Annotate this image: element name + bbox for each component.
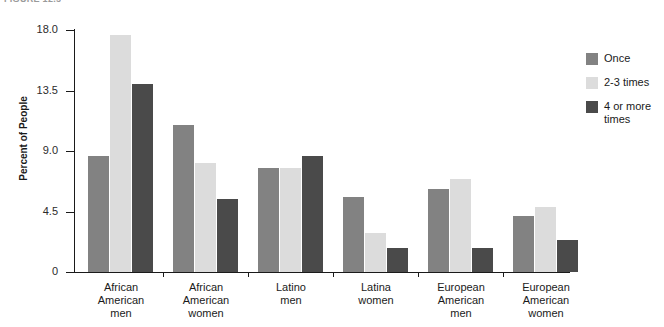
x-group-tick [418, 272, 419, 277]
bar-group [343, 30, 409, 272]
plot-area [74, 30, 564, 272]
x-group-tick [248, 272, 249, 277]
bar [557, 240, 578, 272]
bar-group [88, 30, 154, 272]
bar-group [173, 30, 239, 272]
figure-caption: FIGURE 12.5 [4, 0, 61, 2]
bar-group [258, 30, 324, 272]
bar [110, 35, 131, 272]
bar [513, 216, 534, 272]
legend-item[interactable]: 2-3 times [586, 76, 664, 89]
legend-item[interactable]: 4 or more times [586, 100, 664, 126]
bar [217, 199, 238, 272]
bar [387, 248, 408, 272]
y-tick-label: 0 [0, 266, 58, 277]
bar [258, 168, 279, 272]
legend-swatch-icon [586, 101, 598, 113]
bar [343, 197, 364, 272]
x-axis-line [74, 272, 570, 273]
y-tick-mark [66, 151, 74, 152]
legend-swatch-icon [586, 53, 598, 65]
bar [280, 168, 301, 272]
x-axis-category-label: EuropeanAmericanwomen [491, 281, 601, 320]
y-tick-label: 18.0 [0, 24, 58, 35]
x-group-tick [163, 272, 164, 277]
y-tick-label: 4.5 [0, 206, 58, 217]
figure-root: FIGURE 12.5 Percent of People 04.59.013.… [0, 0, 664, 327]
y-tick-mark [66, 212, 74, 213]
x-group-tick [333, 272, 334, 277]
bar [173, 125, 194, 272]
chart-legend: Once2-3 times4 or more times [586, 52, 664, 137]
bar [472, 248, 493, 272]
x-axis-category-line: American [491, 294, 601, 307]
legend-item-label: 2-3 times [604, 76, 664, 89]
bar [195, 163, 216, 272]
x-group-tick [503, 272, 504, 277]
x-axis-category-line: European [491, 281, 601, 294]
y-tick-mark [66, 272, 74, 273]
x-axis-category-line: women [491, 307, 601, 320]
legend-swatch-icon [586, 77, 598, 89]
x-axis-category-line: women [151, 307, 261, 320]
legend-item-label: 4 or more times [604, 100, 664, 126]
bar [132, 84, 153, 272]
bar-group [428, 30, 494, 272]
bar [428, 189, 449, 272]
bar [535, 207, 556, 272]
bar-group [513, 30, 579, 272]
legend-item[interactable]: Once [586, 52, 664, 65]
bar [365, 233, 386, 272]
y-tick-label: 13.5 [0, 85, 58, 96]
bar [450, 179, 471, 272]
bar [88, 156, 109, 272]
y-tick-mark [66, 30, 74, 31]
legend-item-label: Once [604, 52, 664, 65]
y-tick-label: 9.0 [0, 145, 58, 156]
bar [302, 156, 323, 272]
y-tick-mark [66, 91, 74, 92]
